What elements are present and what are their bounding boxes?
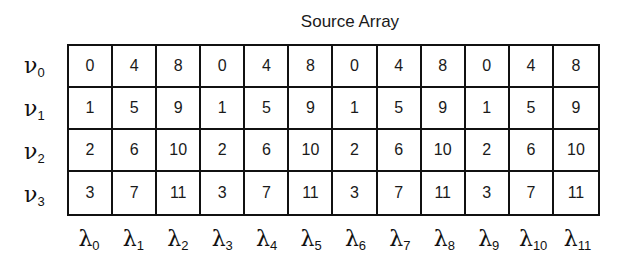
array-cell: 11	[157, 172, 201, 214]
array-cell: 11	[422, 172, 466, 214]
column-label-symbol: λ	[345, 226, 359, 251]
column-label-subscript: 3	[226, 238, 233, 253]
row-label-symbol: ν	[24, 139, 37, 164]
column-label-lambda9: λ9	[467, 226, 511, 253]
column-label-subscript: 1	[137, 238, 144, 253]
array-cell: 2	[69, 130, 113, 172]
column-label-lambda1: λ1	[111, 226, 155, 253]
row-label-symbol: ν	[24, 96, 37, 121]
array-cell: 3	[466, 172, 510, 214]
array-cell: 4	[510, 46, 554, 88]
array-cell: 7	[245, 172, 289, 214]
column-label-symbol: λ	[123, 226, 137, 251]
array-cell: 0	[69, 46, 113, 88]
array-cell: 9	[157, 88, 201, 130]
column-label-symbol: λ	[256, 226, 270, 251]
array-cell: 8	[422, 46, 466, 88]
array-cell: 6	[510, 130, 554, 172]
array-cell: 6	[245, 130, 289, 172]
column-label-subscript: 8	[448, 238, 455, 253]
array-cell: 6	[378, 130, 422, 172]
row-label-v3: ν3	[24, 173, 64, 216]
array-cell: 7	[510, 172, 554, 214]
array-cell: 3	[69, 172, 113, 214]
column-label-symbol: λ	[478, 226, 492, 251]
array-cell: 0	[466, 46, 510, 88]
column-label-lambda6: λ6	[334, 226, 378, 253]
array-cell: 2	[466, 130, 510, 172]
row-label-subscript: 2	[37, 151, 44, 166]
array-cell: 8	[554, 46, 598, 88]
array-cell: 10	[422, 130, 466, 172]
array-cell: 8	[289, 46, 333, 88]
array-cell: 9	[422, 88, 466, 130]
row-label-v1: ν1	[24, 87, 64, 130]
array-cell: 5	[510, 88, 554, 130]
array-cell: 6	[113, 130, 157, 172]
column-label-symbol: λ	[167, 226, 181, 251]
column-label-lambda8: λ8	[422, 226, 466, 253]
row-label-subscript: 1	[37, 108, 44, 123]
array-cell: 5	[113, 88, 157, 130]
array-cell: 2	[333, 130, 377, 172]
array-cell: 4	[378, 46, 422, 88]
column-label-symbol: λ	[300, 226, 314, 251]
column-label-symbol: λ	[389, 226, 403, 251]
column-label-subscript: 0	[92, 238, 99, 253]
array-cell: 7	[378, 172, 422, 214]
column-label-subscript: 6	[359, 238, 366, 253]
row-label-v2: ν2	[24, 130, 64, 173]
array-cell: 2	[201, 130, 245, 172]
array-cell: 7	[113, 172, 157, 214]
array-cell: 10	[554, 130, 598, 172]
column-label-lambda2: λ2	[156, 226, 200, 253]
column-label-subscript: 7	[403, 238, 410, 253]
column-label-lambda3: λ3	[200, 226, 244, 253]
column-label-subscript: 10	[533, 238, 547, 253]
array-cell: 10	[289, 130, 333, 172]
array-cell: 1	[201, 88, 245, 130]
array-cell: 1	[333, 88, 377, 130]
array-cell: 1	[466, 88, 510, 130]
array-cell: 3	[333, 172, 377, 214]
column-label-subscript: 4	[270, 238, 277, 253]
column-label-lambda10: λ10	[511, 226, 555, 253]
diagram-title: Source Array	[270, 12, 430, 32]
array-cell: 9	[554, 88, 598, 130]
column-label-subscript: 2	[181, 238, 188, 253]
array-cell: 4	[245, 46, 289, 88]
array-cell: 9	[289, 88, 333, 130]
array-cell: 1	[69, 88, 113, 130]
array-cell: 10	[157, 130, 201, 172]
array-cell: 5	[245, 88, 289, 130]
column-label-symbol: λ	[78, 226, 92, 251]
column-label-lambda7: λ7	[378, 226, 422, 253]
column-label-subscript: 9	[492, 238, 499, 253]
array-cell: 3	[201, 172, 245, 214]
array-cell: 11	[554, 172, 598, 214]
column-label-lambda5: λ5	[289, 226, 333, 253]
row-label-subscript: 0	[37, 65, 44, 80]
column-label-subscript: 5	[314, 238, 321, 253]
column-label-lambda0: λ0	[67, 226, 111, 253]
array-cell: 11	[289, 172, 333, 214]
row-label-subscript: 3	[37, 194, 44, 209]
source-array-grid: 0480480480481591591591592610261026102610…	[67, 44, 600, 216]
array-cell: 8	[157, 46, 201, 88]
column-label-symbol: λ	[212, 226, 226, 251]
column-label-symbol: λ	[434, 226, 448, 251]
column-label-symbol: λ	[564, 226, 578, 251]
row-label-symbol: ν	[24, 53, 37, 78]
column-label-lambda11: λ11	[556, 226, 600, 253]
array-cell: 0	[333, 46, 377, 88]
row-label-v0: ν0	[24, 44, 64, 87]
array-cell: 5	[378, 88, 422, 130]
array-cell: 4	[113, 46, 157, 88]
row-label-symbol: ν	[24, 182, 37, 207]
array-cell: 0	[201, 46, 245, 88]
column-label-subscript: 11	[578, 238, 592, 253]
column-label-symbol: λ	[519, 226, 533, 251]
column-label-lambda4: λ4	[245, 226, 289, 253]
